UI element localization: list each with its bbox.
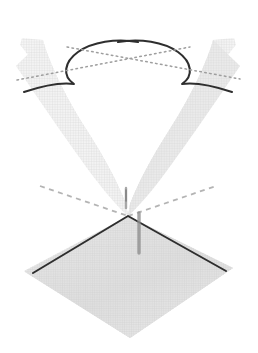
figure-canvas <box>0 0 258 353</box>
plane-edge-dashed-far <box>40 186 216 216</box>
cutting-plane <box>25 216 233 338</box>
conic-section-figure: Conic section: hyperbola formed by a pla… <box>0 0 258 353</box>
